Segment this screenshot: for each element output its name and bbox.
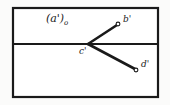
label-a-prime-subscript: o (64, 19, 68, 27)
label-d-prime: d' (141, 59, 149, 69)
figure-canvas: (a') o b' c' d' (0, 0, 170, 105)
label-a-prime: (a') (46, 12, 64, 25)
label-b-prime: b' (123, 14, 131, 24)
label-c-prime: c' (79, 46, 87, 56)
point-marker-d-prime (134, 68, 138, 72)
geometry-drawing: (a') o b' c' d' (0, 0, 170, 105)
point-marker-b-prime (116, 22, 120, 26)
